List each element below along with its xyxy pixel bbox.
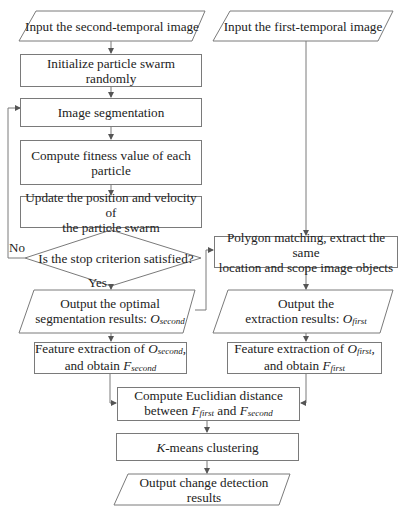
node-text-line2: between Ffirst and Fsecond xyxy=(144,403,273,420)
node-text-line1: Compute Euclidian distance xyxy=(134,388,283,403)
node-text: Image segmentation xyxy=(58,105,165,120)
node-text-line2: and obtain Fsecond xyxy=(65,358,157,375)
node-text-line1: Output the optimal xyxy=(60,296,160,311)
node-feature-extraction-first: Feature extraction of Ofirst, and obtain… xyxy=(227,342,382,374)
node-text-line2: and obtain Ffirst xyxy=(264,358,345,375)
node-kmeans-clustering: K-means clustering xyxy=(116,433,299,461)
node-output-change-detection: Output change detection results xyxy=(122,474,286,505)
node-compute-euclidian-distance: Compute Euclidian distance between Ffirs… xyxy=(117,387,300,421)
node-text-line2: segmentation results: Osecond xyxy=(35,311,185,328)
node-polygon-matching: Polygon matching, extract the same locat… xyxy=(214,236,398,268)
node-text-line1: Compute fitness value of each xyxy=(31,148,191,163)
edge-label-yes: Yes xyxy=(88,275,107,291)
node-text-line1: Polygon matching, extract the same xyxy=(215,230,397,260)
node-text-line1: Feature extraction of Osecond, xyxy=(35,341,186,358)
node-text-line2: particle xyxy=(91,163,131,178)
node-compute-fitness: Compute fitness value of each particle xyxy=(20,140,202,185)
edge-label-no: No xyxy=(9,240,25,256)
node-image-segmentation: Image segmentation xyxy=(20,98,202,127)
node-feature-extraction-second: Feature extraction of Osecond, and obtai… xyxy=(34,342,187,374)
node-text: Input the second-temporal image xyxy=(25,19,199,34)
node-input-first-temporal: Input the first-temporal image xyxy=(218,11,388,41)
node-text-line2: the particle swarm xyxy=(62,220,159,235)
node-text-line1: Output the xyxy=(278,296,334,311)
node-text-line1: Feature extraction of Ofirst, xyxy=(234,341,375,358)
node-text: Is the stop criterion satisfied? xyxy=(38,251,193,266)
node-text-line1: Update the position and velocity of xyxy=(21,190,201,220)
node-initialize-particle-swarm: Initialize particle swarm randomly xyxy=(20,54,202,87)
node-text-line2: extraction results: Ofirst xyxy=(245,311,366,328)
node-text-line2: location and scope image objects xyxy=(219,260,393,275)
node-input-second-temporal: Input the second-temporal image xyxy=(24,11,200,41)
node-text: Output change detection results xyxy=(122,475,286,505)
node-update-position-velocity: Update the position and velocity of the … xyxy=(20,196,202,228)
node-output-extraction-results: Output the extraction results: Ofirst xyxy=(226,290,386,333)
node-text: K-means clustering xyxy=(156,440,258,455)
node-text: Initialize particle swarm randomly xyxy=(21,56,201,86)
node-text: Input the first-temporal image xyxy=(224,19,383,34)
node-output-optimal-segmentation: Output the optimal segmentation results:… xyxy=(30,290,190,333)
node-stop-criterion-decision: Is the stop criterion satisfied? xyxy=(36,250,196,266)
